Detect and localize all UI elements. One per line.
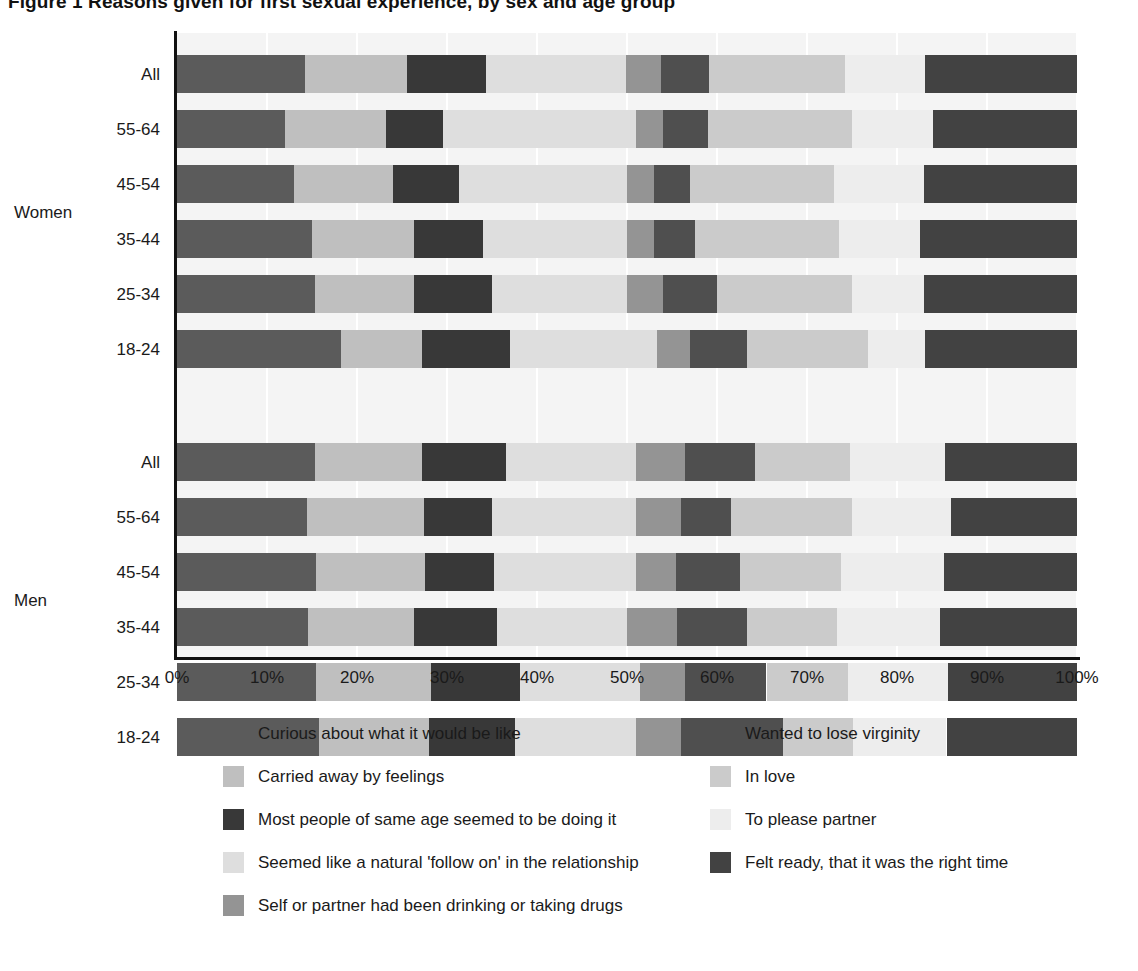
- plot-area: [177, 33, 1077, 658]
- bar-segment: [414, 608, 498, 646]
- x-axis-tick-label: 0%: [142, 668, 212, 688]
- bar-segment: [837, 608, 941, 646]
- bar-segment: [924, 165, 1077, 203]
- bar-row: [177, 55, 1077, 93]
- bar-segment: [177, 220, 312, 258]
- x-axis-tick-label: 90%: [952, 668, 1022, 688]
- bar-segment: [852, 110, 933, 148]
- bar-segment: [177, 110, 285, 148]
- bar-segment: [510, 330, 657, 368]
- bar-segment: [422, 330, 510, 368]
- bar-segment: [690, 165, 834, 203]
- legend-item[interactable]: Curious about what it would be like: [223, 712, 693, 755]
- legend-label: In love: [745, 768, 795, 785]
- y-axis-group-label-men: Men: [14, 591, 124, 611]
- bar-segment: [657, 330, 690, 368]
- bar-segment: [626, 55, 661, 93]
- legend-swatch-in_love: [710, 766, 731, 787]
- bar-segment: [308, 608, 413, 646]
- bar-segment: [506, 443, 636, 481]
- bar-segment: [177, 330, 341, 368]
- bar-segment: [755, 443, 850, 481]
- x-axis-tick-label: 10%: [232, 668, 302, 688]
- bar-segment: [747, 330, 869, 368]
- bar-segment: [924, 275, 1077, 313]
- legend-item[interactable]: To please partner: [710, 798, 1110, 841]
- bar-segment: [834, 165, 924, 203]
- y-axis-tick-label: 45-54: [10, 175, 160, 195]
- chart-title: Figure 1 Reasons given for first sexual …: [8, 0, 675, 13]
- bar-segment: [459, 165, 627, 203]
- bar-segment: [940, 608, 1077, 646]
- legend-swatch-follow_on: [223, 852, 244, 873]
- bar-segment: [951, 498, 1077, 536]
- bar-row: [177, 443, 1077, 481]
- bar-row: [177, 330, 1077, 368]
- legend-item[interactable]: In love: [710, 755, 1110, 798]
- x-axis-tick-label: 100%: [1042, 668, 1112, 688]
- y-axis-tick-label: 35-44: [10, 618, 160, 638]
- legend-swatch-felt_ready: [710, 852, 731, 873]
- bar-segment: [636, 110, 663, 148]
- bar-segment: [424, 498, 492, 536]
- legend-label: Most people of same age seemed to be doi…: [258, 811, 616, 828]
- bar-segment: [852, 275, 924, 313]
- bar-segment: [841, 553, 944, 591]
- legend-swatch-please_partner: [710, 809, 731, 830]
- x-axis-line: [174, 657, 1080, 660]
- bar-segment: [177, 608, 308, 646]
- bar-segment: [717, 275, 852, 313]
- x-axis-tick-label: 80%: [862, 668, 932, 688]
- bar-segment: [177, 165, 294, 203]
- bar-segment: [945, 443, 1077, 481]
- x-axis-tick-label: 40%: [502, 668, 572, 688]
- legend-label: Carried away by feelings: [258, 768, 444, 785]
- bar-segment: [177, 55, 305, 93]
- bar-segment: [483, 220, 627, 258]
- bar-row: [177, 220, 1077, 258]
- bar-segment: [676, 553, 741, 591]
- bar-segment: [654, 165, 690, 203]
- bar-segment: [492, 275, 627, 313]
- bar-segment: [177, 443, 315, 481]
- bar-segment: [845, 55, 925, 93]
- bar-segment: [685, 443, 755, 481]
- x-axis-tick-label: 20%: [322, 668, 392, 688]
- bar-segment: [868, 330, 925, 368]
- y-axis-tick-label: 55-64: [10, 120, 160, 140]
- legend-item[interactable]: Self or partner had been drinking or tak…: [223, 884, 693, 927]
- bar-segment: [944, 553, 1077, 591]
- bar-segment: [627, 275, 663, 313]
- bar-segment: [305, 55, 408, 93]
- bar-segment: [852, 498, 951, 536]
- bar-segment: [494, 553, 636, 591]
- bar-segment: [316, 553, 426, 591]
- legend-item[interactable]: Felt ready, that it was the right time: [710, 841, 1110, 884]
- y-axis-line: [174, 31, 177, 660]
- legend-label: Curious about what it would be like: [258, 725, 521, 742]
- bar-segment: [414, 220, 483, 258]
- legend-item[interactable]: Seemed like a natural 'follow on' in the…: [223, 841, 693, 884]
- bar-segment: [285, 110, 386, 148]
- bar-row: [177, 608, 1077, 646]
- legend-swatch-curious: [223, 723, 244, 744]
- bar-segment: [661, 55, 709, 93]
- bar-segment: [731, 498, 852, 536]
- legend-item[interactable]: Wanted to lose virginity: [710, 712, 1110, 755]
- bar-segment: [307, 498, 424, 536]
- bar-segment: [315, 275, 414, 313]
- bar-segment: [315, 443, 422, 481]
- bar-segment: [920, 220, 1077, 258]
- y-axis-tick-label: 55-64: [10, 508, 160, 528]
- bar-row: [177, 275, 1077, 313]
- bar-segment: [709, 55, 845, 93]
- legend-item[interactable]: Carried away by feelings: [223, 755, 693, 798]
- legend-item[interactable]: Most people of same age seemed to be doi…: [223, 798, 693, 841]
- bar-segment: [627, 220, 654, 258]
- legend-label: Felt ready, that it was the right time: [745, 854, 1008, 871]
- bar-segment: [312, 220, 414, 258]
- bar-segment: [654, 220, 695, 258]
- bar-segment: [681, 498, 731, 536]
- bar-segment: [341, 330, 422, 368]
- legend-label: Wanted to lose virginity: [745, 725, 920, 742]
